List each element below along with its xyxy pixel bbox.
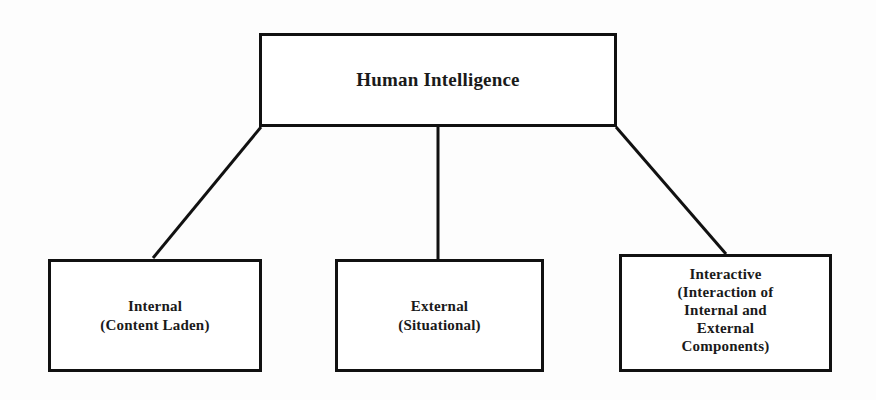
- node-interactive[interactable]: Interactive (Interaction of Internal and…: [619, 254, 832, 372]
- connector-root-to-interactive: [616, 127, 726, 254]
- node-interactive-line-4: Components): [681, 337, 769, 355]
- node-internal[interactable]: Internal (Content Laden): [48, 259, 262, 372]
- node-interactive-line-1: (Interaction of: [678, 283, 774, 301]
- node-external-line-1: (Situational): [398, 316, 481, 335]
- node-external-line-0: External: [411, 297, 468, 316]
- node-interactive-line-2: Internal and: [684, 301, 767, 319]
- node-interactive-line-3: External: [697, 319, 754, 337]
- node-interactive-line-0: Interactive: [689, 265, 761, 283]
- diagram-canvas: Human Intelligence Internal (Content Lad…: [0, 0, 876, 400]
- node-human-intelligence[interactable]: Human Intelligence: [259, 33, 617, 127]
- node-internal-line-1: (Content Laden): [100, 316, 209, 335]
- node-external[interactable]: External (Situational): [335, 259, 544, 372]
- connector-root-to-internal: [153, 127, 261, 258]
- node-root-line-0: Human Intelligence: [356, 68, 520, 92]
- node-internal-line-0: Internal: [128, 297, 182, 316]
